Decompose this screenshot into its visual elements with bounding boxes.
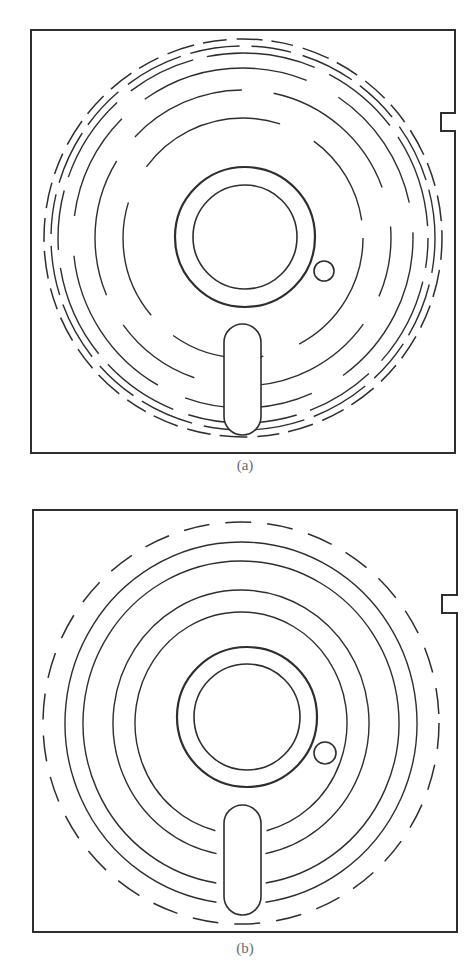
head-access-slot (224, 324, 261, 435)
spindle-hole (193, 185, 297, 289)
index-hole (314, 742, 336, 764)
panel-b-floppy-disk (33, 510, 457, 932)
panel-a-floppy-disk (31, 30, 455, 453)
caption-b: (b) (215, 940, 275, 957)
hub-ring-outer (175, 167, 315, 307)
index-hole (314, 261, 334, 281)
caption-a: (a) (215, 457, 275, 474)
spindle-hole (194, 664, 300, 770)
head-access-slot (224, 805, 261, 915)
hub-ring-outer (177, 647, 317, 787)
track-segmented-1 (123, 118, 363, 358)
floppy-disk-diagram (0, 0, 476, 961)
track-ring-1 (135, 612, 347, 831)
